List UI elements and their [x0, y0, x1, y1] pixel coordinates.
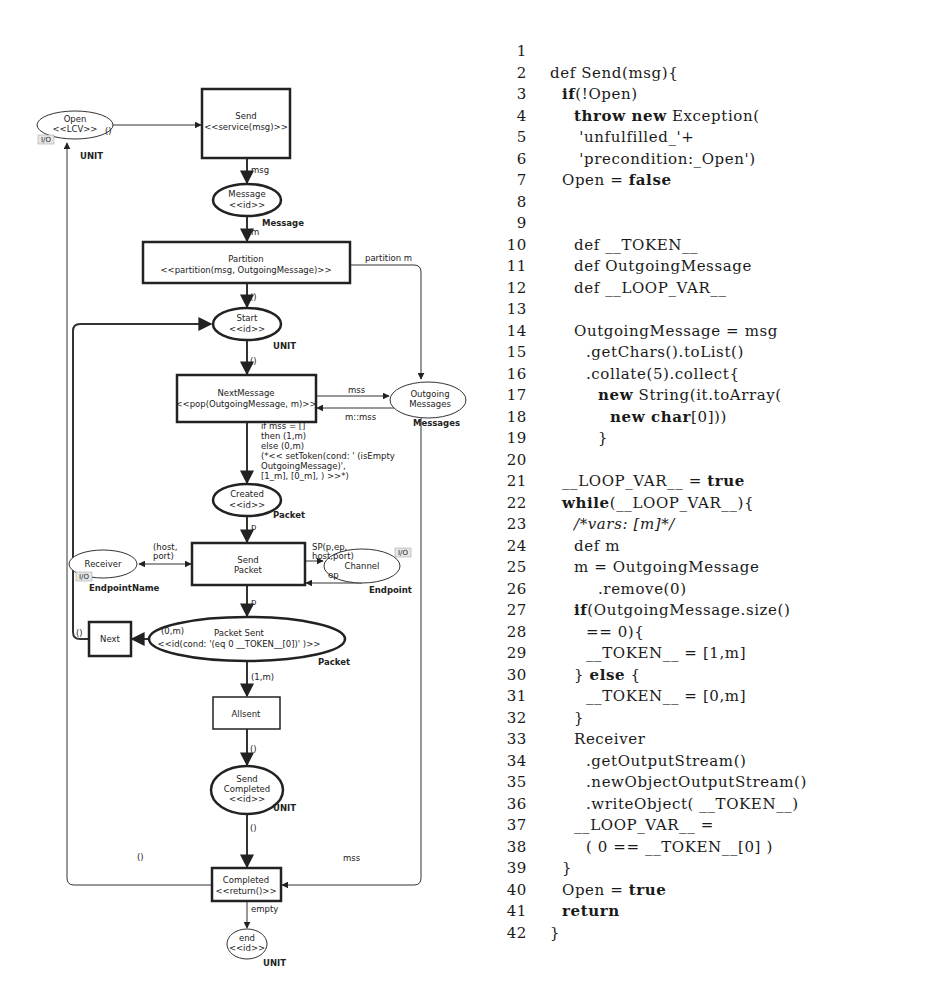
- code-line: 24def m: [495, 535, 943, 557]
- place-message[interactable]: Message <<id>> Message: [213, 184, 304, 228]
- code-text: def Send(msg){: [550, 62, 678, 84]
- place-created-type: Packet: [273, 510, 305, 520]
- line-number: 12: [495, 277, 527, 299]
- place-send-completed-name-2: Completed: [224, 784, 270, 794]
- code-token: __LOOP_VAR__ =: [574, 816, 714, 834]
- transition-completed[interactable]: Completed <<return()>>: [212, 868, 281, 901]
- code-line: 23/*vars: [m]*/: [495, 513, 943, 535]
- code-token: }: [598, 429, 608, 447]
- line-number: 16: [495, 363, 527, 385]
- inscription-message-to-partition: m: [251, 227, 259, 237]
- transition-completed-name: Completed: [223, 875, 269, 885]
- line-number: 31: [495, 685, 527, 707]
- line-number: 28: [495, 621, 527, 643]
- code-text: }: [598, 427, 608, 449]
- inscription-nextmessage-to-created: [1_m], [0_m], ) >>*): [261, 471, 349, 481]
- place-end[interactable]: end <<id>> UNIT: [227, 929, 286, 968]
- petri-net-diagram: Open <<LCV>> I/O UNIT Message <<id>> Mes…: [0, 0, 470, 986]
- transition-send-name: Send: [235, 111, 256, 121]
- code-line: 22while(__LOOP_VAR__){: [495, 492, 943, 514]
- code-text: return: [562, 900, 620, 922]
- inscription-outgoing-to-nextmessage: m::mss: [345, 412, 377, 422]
- code-token: .newObjectOutputStream(): [586, 773, 807, 791]
- transition-partition-stereo: <<partition(msg, OutgoingMessage)>>: [160, 265, 331, 275]
- transition-next-message[interactable]: NextMessage <<pop(OutgoingMessage, m)>>: [175, 375, 316, 422]
- place-channel-type: Endpoint: [369, 585, 412, 595]
- line-number: 38: [495, 836, 527, 858]
- code-text: __LOOP_VAR__ = true: [562, 470, 745, 492]
- code-line: 31__TOKEN__ = [0,m]: [495, 685, 943, 707]
- place-outgoing-messages[interactable]: Outgoing Messages Messages: [390, 382, 466, 428]
- line-number: 24: [495, 535, 527, 557]
- transition-partition[interactable]: Partition <<partition(msg, OutgoingMessa…: [143, 242, 350, 283]
- place-end-name: end: [239, 933, 255, 943]
- code-line: 6 'precondition:_Open'): [495, 148, 943, 170]
- place-start-stereo: <<id>>: [229, 324, 265, 334]
- code-line: 18new char[0])): [495, 406, 943, 428]
- code-text: .remove(0): [598, 578, 687, 600]
- inscription-sendpacket-to-channel: host,port): [312, 551, 354, 561]
- code-text: OutgoingMessage = msg: [574, 320, 778, 342]
- transition-allsent[interactable]: Allsent: [213, 697, 280, 729]
- transition-send-stereo: <<service(msg)>>: [204, 122, 288, 132]
- code-text: 'unfulfilled_'+: [574, 126, 694, 148]
- transition-send-packet[interactable]: Send Packet: [192, 543, 305, 585]
- line-number: 11: [495, 255, 527, 277]
- place-send-completed[interactable]: Send Completed <<id>> UNIT: [211, 766, 296, 814]
- transition-completed-stereo: <<return()>>: [215, 886, 276, 896]
- keyword: throw new: [574, 107, 667, 125]
- code-text: /*vars: [m]*/: [574, 513, 675, 535]
- code-line: 29__TOKEN__ = [1,m]: [495, 642, 943, 664]
- code-line: 39}: [495, 857, 943, 879]
- code-text: == 0){: [586, 621, 644, 643]
- inscription-nextmessage-to-created: else (0,m): [261, 441, 304, 451]
- place-packet-sent[interactable]: Packet Sent <<id(cond: '(eq 0 __TOKEN__[…: [149, 617, 350, 667]
- code-token: }: [574, 709, 584, 727]
- inscription-partition-to-outgoing: partition m: [365, 253, 412, 263]
- place-start[interactable]: Start <<id>> UNIT: [213, 308, 296, 351]
- code-line: 27if(OutgoingMessage.size(): [495, 599, 943, 621]
- transition-partition-name: Partition: [228, 254, 263, 264]
- line-number: 15: [495, 341, 527, 363]
- line-number: 19: [495, 427, 527, 449]
- code-token: Exception(: [667, 107, 760, 125]
- code-token: .getOutputStream(): [586, 752, 747, 770]
- code-text: if(!Open): [562, 83, 638, 105]
- place-created-name: Created: [230, 489, 264, 499]
- arc-partition-to-outgoing: [350, 265, 421, 379]
- line-number: 13: [495, 298, 527, 320]
- code-token: ( 0 == __TOKEN__[0] ): [586, 838, 773, 856]
- place-send-completed-type: UNIT: [273, 803, 296, 813]
- io-tag: I/O: [79, 573, 89, 581]
- code-text: throw new Exception(: [574, 105, 760, 127]
- code-token: __LOOP_VAR__ =: [562, 472, 707, 490]
- code-text: new String(it.toArray(: [598, 384, 782, 406]
- transition-next[interactable]: Next: [89, 622, 131, 656]
- code-token: 'precondition:_Open'): [574, 150, 756, 168]
- transition-send-packet-name-1: Send: [237, 555, 258, 565]
- line-number: 4: [495, 105, 527, 127]
- code-text: def __TOKEN__: [574, 234, 698, 256]
- io-tag: I/O: [41, 136, 51, 144]
- line-number: 10: [495, 234, 527, 256]
- line-number: 40: [495, 879, 527, 901]
- code-text: .getOutputStream(): [586, 750, 747, 772]
- code-text: def m: [574, 535, 620, 557]
- code-line: 37__LOOP_VAR__ =: [495, 814, 943, 836]
- place-created-stereo: <<id>>: [229, 500, 265, 510]
- inscription-completed-to-end: empty: [251, 904, 278, 914]
- line-number: 33: [495, 728, 527, 750]
- transition-send[interactable]: Send <<service(msg)>>: [202, 89, 290, 158]
- place-receiver[interactable]: Receiver I/O EndpointName: [69, 550, 160, 593]
- keyword: else: [590, 666, 626, 684]
- place-channel-name: Channel: [345, 561, 380, 571]
- place-open[interactable]: Open <<LCV>> I/O UNIT: [37, 111, 113, 161]
- line-number: 42: [495, 922, 527, 944]
- inscription-sendcompleted-to-completed: (): [250, 823, 257, 833]
- code-token: (OutgoingMessage.size(): [587, 601, 790, 619]
- place-created[interactable]: Created <<id>> Packet: [213, 484, 305, 520]
- code-text: __TOKEN__ = [0,m]: [586, 685, 746, 707]
- code-text: }: [550, 922, 560, 944]
- line-number: 5: [495, 126, 527, 148]
- inscription-partition-to-start: (): [250, 292, 257, 302]
